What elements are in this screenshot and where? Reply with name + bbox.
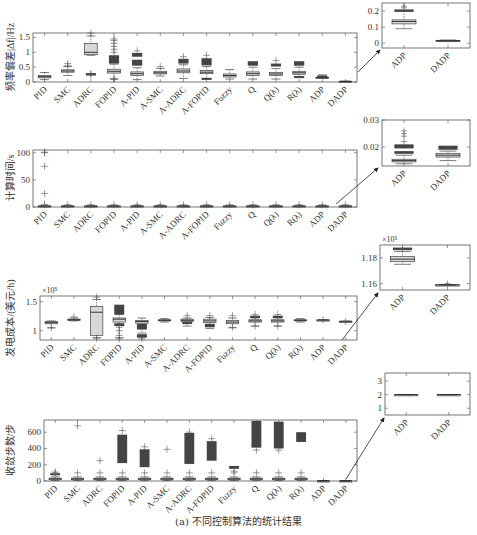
x-tick-label: Q xyxy=(246,84,258,96)
y-tick-label: 0.5 xyxy=(19,62,31,72)
x-tick-label: ADP xyxy=(391,417,411,437)
x-tick-label: FOPID xyxy=(93,84,119,110)
plot-frame xyxy=(385,373,470,415)
x-tick-label: ADRC xyxy=(71,84,96,109)
y-tick-label: 3 xyxy=(378,376,383,386)
x-tick-label: Fuzzy xyxy=(216,483,239,506)
x-tick-label: Fuzzy xyxy=(214,342,237,365)
outlier-cluster xyxy=(201,58,211,65)
y-tick-label: 0 xyxy=(26,202,31,212)
main-plot: 050100PIDSMCADRCFOPIDA-PIDA-SMCA-ADRCA-F… xyxy=(17,148,358,242)
axis-multiplier: ×10⁵ xyxy=(382,235,398,244)
x-tick-label: Q xyxy=(246,209,258,221)
plot-frame xyxy=(33,150,357,207)
x-tick-label: PID xyxy=(38,342,56,360)
x-tick-label: ADRC xyxy=(80,483,105,508)
x-tick-label: DADP xyxy=(428,168,452,192)
y-tick-label: 100 xyxy=(17,148,31,158)
figure: 00.511.5PIDSMCADRCFOPIDA-PIDA-SMCA-ADRCA… xyxy=(0,0,477,535)
y-tick-label: 50 xyxy=(21,175,31,185)
y-tick-label: 200 xyxy=(28,460,42,470)
x-tick-label: ADP xyxy=(387,292,407,312)
plot-frame xyxy=(40,296,357,340)
x-tick-label: Q(λ) xyxy=(264,483,283,502)
y-tick-label: 0.03 xyxy=(363,115,379,125)
outlier-cluster xyxy=(205,324,215,327)
y-tick-label: 0.2 xyxy=(368,6,379,16)
x-tick-label: DADP xyxy=(429,417,453,441)
outlier-cluster xyxy=(140,449,150,467)
x-tick-label: R(λ) xyxy=(285,209,304,228)
outlier-cluster xyxy=(394,151,413,154)
x-tick-label: PID xyxy=(32,84,50,102)
plot-frame xyxy=(44,420,357,481)
x-tick-label: PID xyxy=(32,209,50,227)
y-tick-label: 400 xyxy=(28,443,42,453)
y-tick-label: 600 xyxy=(28,427,42,437)
x-tick-label: ADRC xyxy=(76,342,101,367)
outlier-cluster xyxy=(117,435,127,463)
x-tick-label: Q(λ) xyxy=(263,342,282,361)
outlier-cluster xyxy=(438,146,457,150)
y-tick-label: 1.18 xyxy=(361,253,377,263)
x-tick-label: DADP xyxy=(325,209,349,233)
plot-frame xyxy=(33,33,357,82)
x-tick-label: SMC xyxy=(52,209,73,230)
outlier-cluster xyxy=(207,441,217,461)
outlier-cluster xyxy=(294,61,304,65)
outlier-cluster xyxy=(394,144,413,148)
x-tick-label: DADP xyxy=(325,84,349,108)
main-plot: 0200400600PIDSMCADRCFOPIDA-PIDA-SMCA-ADR… xyxy=(28,420,358,516)
y-tick-label: 0.02 xyxy=(363,142,379,152)
x-tick-label: FOPID xyxy=(101,483,127,509)
zoom-arrow xyxy=(358,50,380,72)
box-iqr xyxy=(84,43,97,54)
x-tick-label: R(λ) xyxy=(287,483,306,502)
y-tick-label: 1.16 xyxy=(361,279,377,289)
x-tick-label: ADRC xyxy=(71,209,96,234)
x-tick-label: Q(λ) xyxy=(261,209,280,228)
main-plot: 11.5×10⁵PIDSMCADRCFOPIDA-PIDA-SMCA-ADRCA… xyxy=(26,286,357,375)
outlier-cluster xyxy=(109,55,119,63)
x-tick-label: Q xyxy=(249,483,261,495)
y-axis-label: 发电成本/(美元/h) xyxy=(4,279,17,356)
x-tick-label: DADP xyxy=(326,342,350,366)
y-tick-label: 0 xyxy=(375,38,380,48)
x-tick-label: DADP xyxy=(428,292,452,316)
box-iqr xyxy=(90,306,102,335)
y-axis-label: 频率偏差|Δf|/Hz xyxy=(4,22,16,91)
outlier-cluster xyxy=(317,75,327,77)
x-tick-label: PID xyxy=(42,483,60,501)
x-tick-label: FOPID xyxy=(98,342,124,368)
x-tick-label: Fuzzy xyxy=(212,84,235,107)
inset-plot: 0.020.03ADPDADP xyxy=(363,115,470,193)
x-tick-label: R(λ) xyxy=(285,84,304,103)
inset-plot: 1.161.18×10⁵ADPDADP xyxy=(361,235,470,317)
main-plot: 00.511.5PIDSMCADRCFOPIDA-PIDA-SMCA-ADRCA… xyxy=(19,30,357,117)
y-tick-label: 0.1 xyxy=(368,22,379,32)
inset-plot: 123ADPDADP xyxy=(378,373,471,442)
x-tick-label: ADP xyxy=(389,168,409,188)
x-tick-label: R(λ) xyxy=(286,342,305,361)
axis-multiplier: ×10⁵ xyxy=(42,286,58,295)
outlier-cluster xyxy=(132,60,142,66)
y-tick-label: 0 xyxy=(37,476,42,486)
y-tick-label: 1 xyxy=(378,403,383,413)
outlier-cluster xyxy=(294,76,304,78)
outlier-cluster xyxy=(248,61,258,65)
y-tick-label: 1 xyxy=(26,47,31,57)
y-tick-label: 1.5 xyxy=(19,32,31,42)
outlier-cluster xyxy=(184,433,194,464)
outlier-cluster xyxy=(296,432,306,442)
y-tick-label: 0 xyxy=(26,77,31,87)
outlier-cluster xyxy=(251,421,261,448)
y-axis-label: 计算时间/s xyxy=(4,155,16,202)
x-tick-label: ADP xyxy=(308,342,328,362)
outlier-cluster xyxy=(137,324,147,330)
x-tick-label: ADP xyxy=(307,209,327,229)
outlier-cluster xyxy=(182,322,192,324)
y-tick-label: 1 xyxy=(33,326,38,336)
x-tick-label: Q(λ) xyxy=(261,84,280,103)
x-tick-label: Fuzzy xyxy=(212,209,235,232)
outlier-cluster xyxy=(201,78,211,80)
